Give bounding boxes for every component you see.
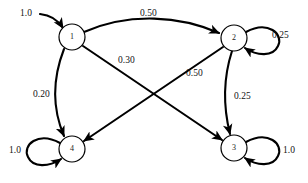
edge-label-start-to-1: 1.0 (20, 8, 32, 19)
edge-label-3-self-loop: 1.0 (283, 145, 295, 156)
diagram-canvas: 1 2 3 4 1.0 0.50 0.30 0.20 0.50 0.25 0.2… (0, 0, 308, 183)
edge-1-to-4 (55, 49, 64, 136)
edge-label-2-to-3: 0.25 (234, 91, 251, 102)
edge-label-2-to-4: 0.50 (186, 68, 203, 79)
edge-1-to-2 (84, 19, 219, 33)
node-label-2: 2 (224, 33, 244, 43)
edge-label-1-to-3: 0.30 (118, 55, 135, 66)
edge-2-to-3 (225, 51, 232, 134)
node-label-3: 3 (224, 143, 244, 153)
edge-label-2-self-loop: 0.25 (272, 30, 289, 41)
node-label-1: 1 (62, 32, 82, 42)
edge-start-to-1 (40, 14, 63, 28)
edge-4-self-loop (27, 138, 61, 165)
edge-label-1-to-4: 0.20 (33, 89, 50, 100)
edge-label-4-self-loop: 1.0 (9, 145, 21, 156)
edge-3-self-loop (245, 137, 279, 164)
edge-label-1-to-2: 0.50 (140, 8, 157, 19)
edge-1-to-3 (83, 46, 222, 140)
node-label-4: 4 (62, 144, 82, 154)
